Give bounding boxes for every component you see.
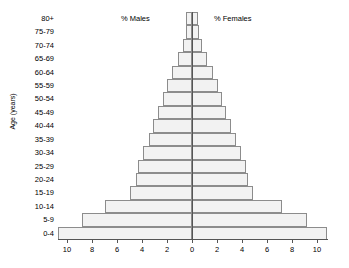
x-tick-mark <box>292 239 293 243</box>
x-tick-mark <box>267 239 268 243</box>
bar-female <box>192 106 226 119</box>
bar-female <box>192 186 253 199</box>
x-tick-label: 4 <box>132 245 152 254</box>
bar-male <box>183 39 192 52</box>
x-tick-label: 8 <box>282 245 302 254</box>
y-tick-label: 20-24 <box>8 173 54 186</box>
x-tick-label: 6 <box>107 245 127 254</box>
y-tick-label: 10-14 <box>8 200 54 213</box>
bar-female <box>192 39 202 52</box>
population-pyramid-chart: Age (years) % Males % Females 80+75-7970… <box>0 0 349 268</box>
y-tick-label: 55-59 <box>8 79 54 92</box>
bar-male <box>163 92 192 105</box>
x-tick-label: 6 <box>257 245 277 254</box>
x-tick-label: 10 <box>307 245 327 254</box>
x-axis-line <box>58 239 328 240</box>
x-tick-mark <box>92 239 93 243</box>
bar-male <box>136 173 192 186</box>
y-tick-label: 30-34 <box>8 146 54 159</box>
bar-female <box>192 213 307 226</box>
y-tick-label: 35-39 <box>8 133 54 146</box>
y-tick-label: 60-64 <box>8 66 54 79</box>
x-tick-label: 2 <box>207 245 227 254</box>
y-tick-label: 25-29 <box>8 160 54 173</box>
bar-female <box>192 160 246 173</box>
bar-female <box>192 173 248 186</box>
bar-female <box>192 227 327 240</box>
bar-female <box>192 133 236 146</box>
y-tick-label: 65-69 <box>8 52 54 65</box>
bar-male <box>82 213 192 226</box>
y-tick-label: 0-4 <box>8 227 54 240</box>
y-tick-label: 15-19 <box>8 186 54 199</box>
y-tick-label: 50-54 <box>8 92 54 105</box>
bar-male <box>143 146 192 159</box>
x-tick-mark <box>67 239 68 243</box>
x-tick-mark <box>192 239 193 243</box>
bar-male <box>178 52 192 65</box>
y-tick-label: 40-44 <box>8 119 54 132</box>
x-tick-label: 4 <box>232 245 252 254</box>
bar-female <box>192 79 218 92</box>
y-tick-label: 80+ <box>8 12 54 25</box>
x-tick-label: 10 <box>57 245 77 254</box>
bar-male <box>153 119 192 132</box>
bar-female <box>192 200 282 213</box>
x-tick-label: 2 <box>157 245 177 254</box>
bar-female <box>192 25 199 38</box>
bar-male <box>167 79 192 92</box>
bar-male <box>58 227 192 240</box>
x-tick-mark <box>167 239 168 243</box>
x-tick-label: 8 <box>82 245 102 254</box>
bar-male <box>158 106 192 119</box>
bar-female <box>192 66 213 79</box>
bar-male <box>105 200 193 213</box>
bar-female <box>192 119 231 132</box>
y-tick-label: 45-49 <box>8 106 54 119</box>
x-tick-mark <box>117 239 118 243</box>
bar-male <box>172 66 192 79</box>
x-tick-mark <box>142 239 143 243</box>
x-tick-mark <box>242 239 243 243</box>
y-tick-label: 70-74 <box>8 39 54 52</box>
y-tick-label: 5-9 <box>8 213 54 226</box>
x-tick-mark <box>317 239 318 243</box>
x-tick-mark <box>217 239 218 243</box>
bar-female <box>192 92 222 105</box>
bar-male <box>138 160 192 173</box>
bar-female <box>192 52 207 65</box>
y-tick-label: 75-79 <box>8 25 54 38</box>
zero-axis-line <box>192 12 193 240</box>
bar-female <box>192 146 241 159</box>
bar-male <box>149 133 192 146</box>
x-tick-label: 0 <box>182 245 202 254</box>
bar-male <box>130 186 192 199</box>
